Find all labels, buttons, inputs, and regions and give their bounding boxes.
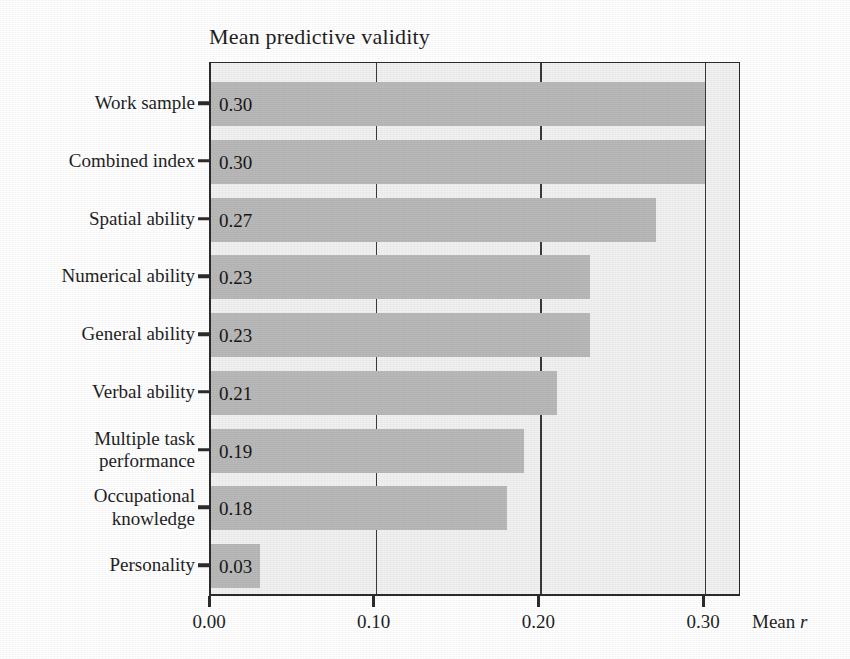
x-axis-tick xyxy=(537,596,540,607)
x-axis-tick-label: 0.00 xyxy=(192,611,225,633)
bar xyxy=(211,198,656,242)
x-axis-label: Mean r xyxy=(752,611,807,633)
bar xyxy=(211,429,524,473)
x-axis-tick xyxy=(702,596,705,607)
x-axis-tick xyxy=(372,596,375,607)
x-axis-tick xyxy=(208,596,211,607)
y-axis-tick xyxy=(198,563,210,567)
y-axis-tick xyxy=(198,506,210,510)
bar-value-label: 0.23 xyxy=(219,268,252,287)
bar-chart-figure: Mean predictive validity Work sampleComb… xyxy=(0,0,850,659)
y-axis-tick xyxy=(198,217,210,221)
y-axis-tick xyxy=(198,159,210,163)
y-axis-category-label: Verbal ability xyxy=(0,381,195,403)
y-axis-category-label: Work sample xyxy=(0,92,195,114)
y-axis-tick xyxy=(198,275,210,279)
y-axis-tick xyxy=(198,390,210,394)
y-axis-tick xyxy=(198,332,210,336)
x-axis-tick-label: 0.30 xyxy=(686,611,719,633)
y-axis-category-label: General ability xyxy=(0,323,195,345)
y-axis-tick xyxy=(198,101,210,105)
bar-value-label: 0.27 xyxy=(219,211,252,230)
bar-value-label: 0.18 xyxy=(219,499,252,518)
bar-value-label: 0.19 xyxy=(219,442,252,461)
y-axis-tick xyxy=(198,448,210,452)
y-axis-category-label: Combined index xyxy=(0,150,195,172)
bar-value-label: 0.30 xyxy=(219,95,252,114)
bar xyxy=(211,486,507,530)
gridline-0.30 xyxy=(705,63,706,594)
x-axis-label-symbol: r xyxy=(800,611,807,632)
y-axis-category-label: Multiple task performance xyxy=(0,427,195,472)
y-axis-category-label: Occupational knowledge xyxy=(0,485,195,530)
bar xyxy=(211,371,557,415)
bar xyxy=(211,82,705,126)
x-axis-tick-label: 0.10 xyxy=(357,611,390,633)
y-axis-category-label: Spatial ability xyxy=(0,207,195,229)
y-axis-category-label: Numerical ability xyxy=(0,265,195,287)
bar-value-label: 0.21 xyxy=(219,384,252,403)
bar-value-label: 0.23 xyxy=(219,326,252,345)
chart-title: Mean predictive validity xyxy=(209,24,430,50)
bar xyxy=(211,140,705,184)
x-axis-label-text: Mean xyxy=(752,611,800,632)
x-axis-tick-label: 0.20 xyxy=(522,611,555,633)
y-axis-category-labels: Work sampleCombined indexSpatial ability… xyxy=(0,0,195,659)
bar xyxy=(211,255,590,299)
bar-value-label: 0.30 xyxy=(219,153,252,172)
y-axis-category-label: Personality xyxy=(0,554,195,576)
bar xyxy=(211,313,590,357)
bar-value-label: 0.03 xyxy=(219,557,252,576)
plot-area: 0.300.300.270.230.230.210.190.180.03 xyxy=(209,62,740,596)
